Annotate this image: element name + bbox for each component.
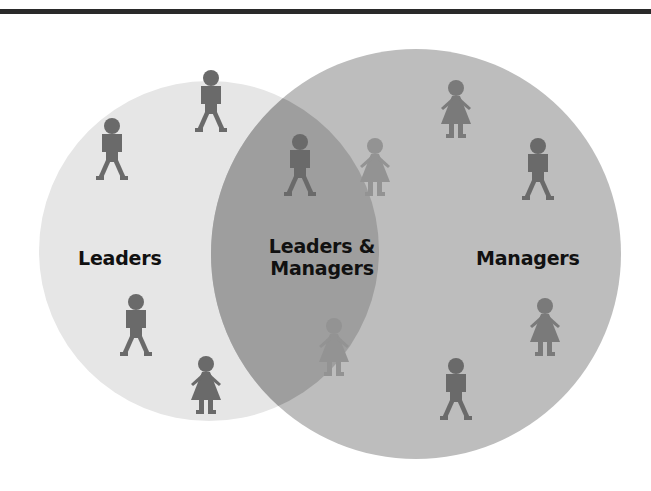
intersection-label: Leaders & Managers: [262, 235, 382, 279]
leaders-label: Leaders: [78, 247, 162, 269]
intersection-label-line2: Managers: [262, 257, 382, 279]
intersection-label-line1: Leaders &: [262, 235, 382, 257]
managers-label: Managers: [476, 247, 580, 269]
